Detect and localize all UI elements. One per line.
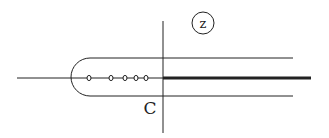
pole-marker xyxy=(144,75,148,80)
pole-marker xyxy=(87,75,91,80)
pole-marker xyxy=(109,75,113,80)
pole-marker xyxy=(123,75,127,80)
contour-diagram: z C xyxy=(0,0,329,138)
contour-label: C xyxy=(143,98,156,118)
plane-label: z xyxy=(200,16,207,31)
pole-marker xyxy=(134,75,138,80)
